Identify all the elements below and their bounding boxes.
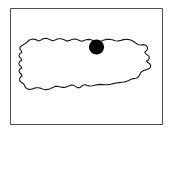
city-marker-san-juan[interactable] — [89, 39, 104, 54]
map-figure: Puerto Rico San Juan Puerto Rico — [0, 0, 175, 172]
map-canvas — [0, 0, 175, 172]
